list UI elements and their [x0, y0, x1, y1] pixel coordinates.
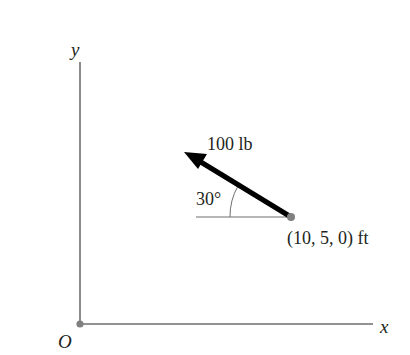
- y-axis-label: y: [71, 40, 79, 59]
- angle-arc: [230, 186, 238, 217]
- origin-label: O: [58, 332, 72, 351]
- x-axis-label: x: [380, 317, 388, 336]
- point-coordinates-label: (10, 5, 0) ft: [287, 229, 368, 247]
- angle-label: 30°: [196, 190, 221, 208]
- diagram-canvas: [0, 0, 410, 355]
- force-magnitude-label: 100 lb: [207, 135, 253, 153]
- origin-point: [76, 320, 83, 327]
- application-point: [287, 213, 295, 221]
